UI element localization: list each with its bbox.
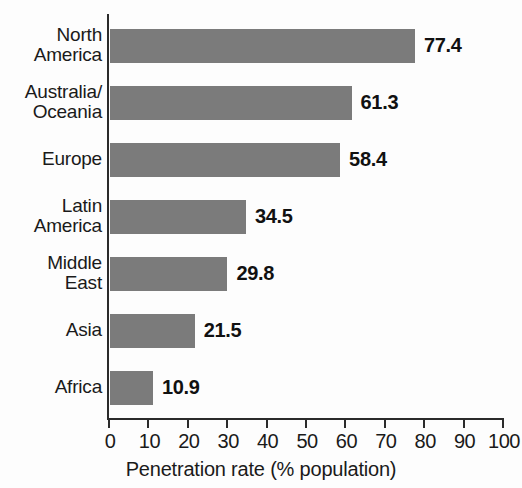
category-label: Latin America xyxy=(0,196,102,236)
x-axis-tick xyxy=(147,420,149,428)
x-axis-title: Penetration rate (% population) xyxy=(0,458,522,481)
bar-row: Asia21.5 xyxy=(0,314,522,348)
bar-value-label: 61.3 xyxy=(361,91,399,114)
category-label: Australia/ Oceania xyxy=(0,82,102,122)
bar xyxy=(110,257,227,291)
bar-chart: North America77.4Australia/ Oceania61.3E… xyxy=(0,0,522,488)
category-label: Asia xyxy=(0,320,102,340)
bar-value-label: 21.5 xyxy=(204,319,242,342)
bar xyxy=(110,371,153,405)
x-axis-tick xyxy=(502,420,504,428)
bar-row: North America77.4 xyxy=(0,29,522,63)
x-axis-tick xyxy=(266,420,268,428)
bar xyxy=(110,29,415,63)
category-label: North America xyxy=(0,25,102,65)
category-label: Europe xyxy=(0,149,102,169)
bar-row: Africa10.9 xyxy=(0,371,522,405)
bar-value-label: 34.5 xyxy=(255,205,293,228)
x-axis-tick xyxy=(384,420,386,428)
bar-row: Middle East29.8 xyxy=(0,257,522,291)
bar-row: Europe58.4 xyxy=(0,143,522,177)
bar-value-label: 29.8 xyxy=(236,262,274,285)
category-label: Africa xyxy=(0,377,102,397)
category-label: Middle East xyxy=(0,253,102,293)
bar xyxy=(110,200,246,234)
bar-value-label: 58.4 xyxy=(349,148,387,171)
x-axis-tick xyxy=(305,420,307,428)
x-axis-tick xyxy=(463,420,465,428)
bar xyxy=(110,143,340,177)
x-axis-tick xyxy=(423,420,425,428)
x-axis-tick-label: 100 xyxy=(474,430,522,453)
bar-row: Australia/ Oceania61.3 xyxy=(0,86,522,120)
bar xyxy=(110,86,352,120)
bar-row: Latin America34.5 xyxy=(0,200,522,234)
x-axis-tick xyxy=(187,420,189,428)
x-axis-tick xyxy=(108,420,110,428)
y-axis-line xyxy=(107,14,109,420)
bar-value-label: 10.9 xyxy=(162,376,200,399)
x-axis-tick xyxy=(226,420,228,428)
bar-value-label: 77.4 xyxy=(424,34,462,57)
x-axis-tick xyxy=(344,420,346,428)
bar xyxy=(110,314,195,348)
